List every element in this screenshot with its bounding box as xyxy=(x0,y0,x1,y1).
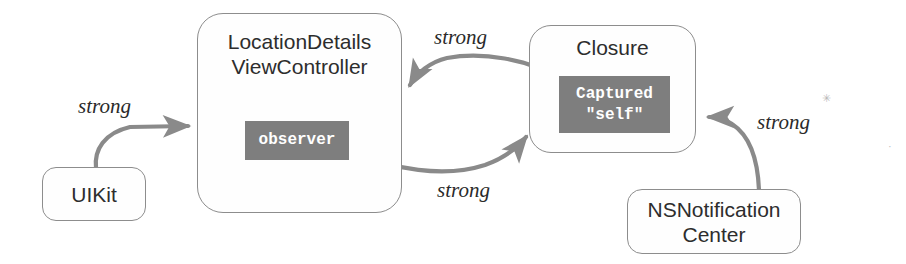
badge-captured-self: Captured "self" xyxy=(559,76,670,133)
diagram-canvas: LocationDetails ViewController Closure U… xyxy=(0,0,906,264)
node-label: Closure xyxy=(576,35,648,60)
edge-nsnc-to-closure xyxy=(709,117,759,190)
edge-label-observer-to-closure: strong xyxy=(437,178,490,203)
node-label: NSNotification Center xyxy=(647,197,780,247)
badge-label: observer xyxy=(259,131,336,150)
edge-label-nsnc-to-closure: strong xyxy=(757,110,810,135)
node-uikit[interactable]: UIKit xyxy=(42,167,146,221)
node-location-details-view-controller[interactable]: LocationDetails ViewController xyxy=(197,13,402,213)
scan-speck: · xyxy=(888,140,892,152)
node-label: LocationDetails ViewController xyxy=(228,29,372,79)
scan-speck: ✳ xyxy=(822,92,831,105)
edge-uikit-to-vc xyxy=(96,126,188,168)
badge-label: Captured "self" xyxy=(576,84,653,126)
edge-label-uikit-to-vc: strong xyxy=(78,94,131,119)
node-label: UIKit xyxy=(71,182,117,207)
node-nsnotification-center[interactable]: NSNotification Center xyxy=(627,189,801,254)
badge-observer: observer xyxy=(245,121,349,160)
edge-label-closure-to-vc: strong xyxy=(434,25,487,50)
